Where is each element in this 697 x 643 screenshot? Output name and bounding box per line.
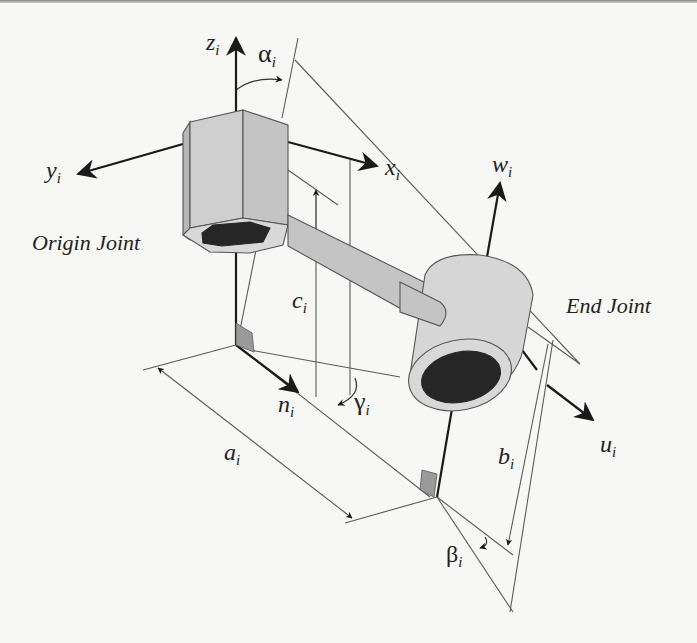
end-joint-label: End Joint: [565, 293, 652, 318]
link-geometry-diagram: zi αi yi xi wi Origin Joint End Joint ci…: [0, 0, 697, 643]
b-dimension-line: [508, 344, 548, 545]
y-axis-label: yi: [44, 157, 61, 186]
u-axis-label: ui: [600, 431, 616, 460]
a-dimension-label: ai: [224, 439, 240, 468]
u-axis-tail: [522, 350, 537, 370]
y-axis: [78, 144, 183, 174]
z-axis-label: zi: [205, 29, 220, 58]
n-axis: [236, 345, 298, 392]
n-axis-label: ni: [278, 391, 294, 420]
a-dimension-line: [158, 368, 352, 518]
beta-arc: [480, 537, 487, 548]
gamma-label: γi: [353, 387, 370, 418]
origin-joint-bore: [202, 222, 270, 246]
right-angle-marker-end: [420, 470, 437, 497]
x-axis: [288, 142, 377, 166]
alpha-label: αi: [258, 39, 276, 70]
b-dimension-label: bi: [498, 443, 514, 472]
origin-joint-label: Origin Joint: [32, 230, 141, 255]
beta-label: βi: [446, 541, 462, 570]
c-dimension-label: ci: [292, 287, 307, 316]
origin-joint-hex-prism: [183, 110, 288, 253]
u-axis: [547, 385, 593, 420]
w-axis-label: wi: [492, 151, 512, 180]
alpha-arc: [236, 79, 282, 90]
w-axis: [487, 183, 500, 257]
end-joint-cylinder: [400, 255, 533, 420]
x-axis-label: xi: [384, 154, 400, 183]
